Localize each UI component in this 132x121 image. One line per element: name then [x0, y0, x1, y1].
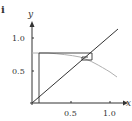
y-axis-arrow-icon	[30, 21, 35, 27]
function-curve	[32, 53, 117, 77]
y-axis-label: y	[27, 9, 34, 19]
cobweb-diagram: i y x 0.5 1.0 1.0 0.5	[0, 0, 132, 121]
x-axis-label: x	[126, 98, 131, 108]
identity-line	[32, 29, 118, 103]
y-tick-label-0.5: 0.5	[12, 67, 25, 76]
panel-label: i	[1, 4, 5, 15]
cobweb-path	[39, 53, 92, 103]
y-tick-label-1.0: 1.0	[12, 34, 25, 43]
x-tick-label-0.5: 0.5	[64, 109, 77, 118]
x-tick-label-1.0: 1.0	[103, 109, 116, 118]
